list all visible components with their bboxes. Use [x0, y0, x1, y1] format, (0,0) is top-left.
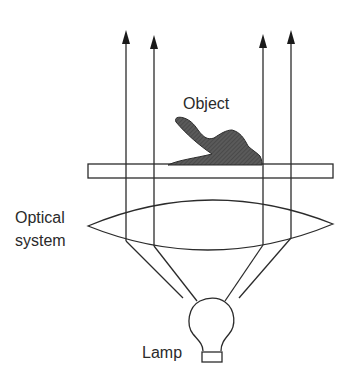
- diagonal-ray-1: [126, 241, 183, 298]
- light-rays-vertical: [122, 30, 295, 246]
- optical-system-label-line2: system: [15, 232, 66, 249]
- arrowhead-icon: [259, 34, 267, 48]
- object-specimen: [168, 117, 262, 165]
- specimen-slide: [88, 164, 333, 178]
- light-rays-diagonal: [126, 238, 291, 301]
- diagonal-ray-2: [154, 246, 197, 301]
- lamp-icon: [189, 298, 234, 362]
- optical-system-lens: [88, 200, 333, 250]
- optical-system-label-line1: Optical: [15, 209, 65, 226]
- arrowhead-icon: [287, 30, 295, 44]
- microscope-illumination-diagram: Object Optical system Lamp: [0, 0, 355, 389]
- arrowhead-icon: [122, 30, 130, 44]
- lamp-label: Lamp: [142, 344, 182, 361]
- arrowhead-icon: [150, 35, 158, 49]
- object-label: Object: [183, 95, 230, 112]
